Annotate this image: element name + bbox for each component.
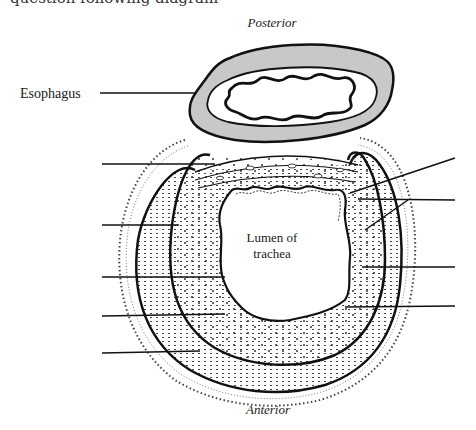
esophagus-label: Esophagus	[20, 86, 81, 101]
anterior-label: Anterior	[245, 402, 291, 417]
leader-line-right-2	[358, 199, 455, 200]
trachea-cross-section-diagram: Posterior Anterior Esophagus Lumen of tr…	[0, 0, 476, 430]
lumen-label-line2: trachea	[253, 246, 291, 261]
leader-line-right-5	[345, 306, 455, 307]
lumen-label-line1: Lumen of	[247, 230, 299, 245]
posterior-label: Posterior	[246, 15, 297, 30]
esophagus	[190, 44, 394, 141]
